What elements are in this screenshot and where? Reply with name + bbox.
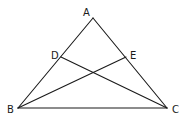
segment-dc	[61, 57, 167, 108]
vertex-label-d: D	[51, 50, 59, 61]
vertex-label-c: C	[172, 104, 179, 115]
segment-ab	[18, 18, 93, 108]
triangle-figure: ADEBC	[0, 0, 188, 122]
labels-group: ADEBC	[7, 7, 179, 115]
vertex-label-a: A	[83, 7, 90, 18]
vertex-label-e: E	[130, 50, 136, 61]
segments-group	[18, 18, 167, 108]
segment-be	[18, 57, 126, 108]
geometry-diagram: ADEBC	[0, 0, 188, 122]
vertex-label-b: B	[7, 104, 14, 115]
segment-ac	[93, 18, 167, 108]
